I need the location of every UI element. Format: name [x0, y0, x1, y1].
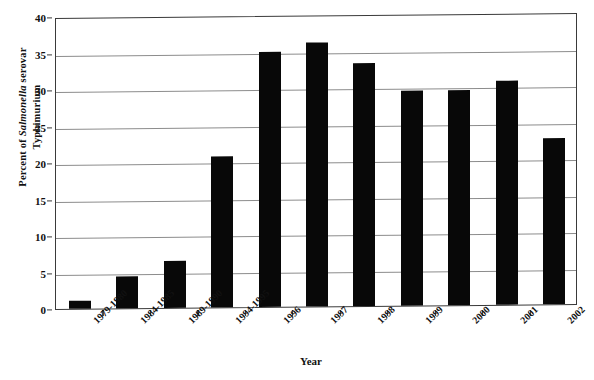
x-axis-title: Year — [0, 355, 594, 367]
x-axis-tick-label: 1984-1985 — [138, 318, 146, 326]
x-axis-tick-label: 1999 — [423, 318, 431, 326]
y-axis-tick-labels: 0510152025303540 — [18, 18, 52, 310]
y-axis-tick-label: 25 — [35, 122, 46, 133]
x-axis-tick-label: 1997 — [328, 318, 336, 326]
y-axis-tick-label: 15 — [35, 195, 46, 206]
bar — [259, 52, 281, 307]
x-axis-tick-label: 1996 — [281, 318, 289, 326]
y-axis-tick-mark — [47, 273, 52, 274]
bar — [448, 90, 470, 306]
bar — [69, 301, 91, 309]
y-axis-tick-mark — [47, 17, 52, 18]
y-axis-tick-label: 35 — [35, 49, 46, 60]
y-axis-tick-mark — [47, 127, 52, 128]
bar — [401, 91, 423, 306]
bar-chart: Percent of Salmonella serovar Typhimuriu… — [0, 0, 594, 380]
bar — [353, 63, 375, 306]
y-axis-tick-mark — [47, 54, 52, 55]
x-axis-tick-label: 1979-1980 — [91, 318, 99, 326]
y-axis-tick-mark — [47, 236, 52, 237]
x-axis-tick-label: 1998 — [375, 318, 383, 326]
plot-area — [55, 13, 577, 310]
bar — [306, 43, 328, 307]
y-axis-tick-label: 40 — [35, 13, 46, 24]
bar — [543, 138, 565, 305]
x-axis-tick-label: 2001 — [518, 318, 526, 326]
y-axis-tick-mark — [47, 163, 52, 164]
bar — [496, 80, 518, 304]
y-axis-tick-mark — [47, 90, 52, 91]
y-axis-tick-label: 20 — [35, 159, 46, 170]
x-axis-tick-label: 1989-1990 — [186, 318, 194, 326]
y-axis-tick-label: 30 — [35, 86, 46, 97]
bar — [211, 156, 233, 307]
y-axis-tick-label: 10 — [35, 232, 46, 243]
x-axis-tick-label: 2000 — [470, 318, 478, 326]
y-axis-tick-label: 5 — [41, 268, 47, 279]
y-axis-tick-label: 0 — [41, 305, 47, 316]
y-axis-tick-mark — [47, 200, 52, 201]
y-axis-tick-mark — [47, 309, 52, 310]
bars-group — [56, 14, 576, 309]
x-axis-tick-label: 2002 — [565, 318, 573, 326]
x-axis-tick-label: 1994-1995 — [233, 318, 241, 326]
